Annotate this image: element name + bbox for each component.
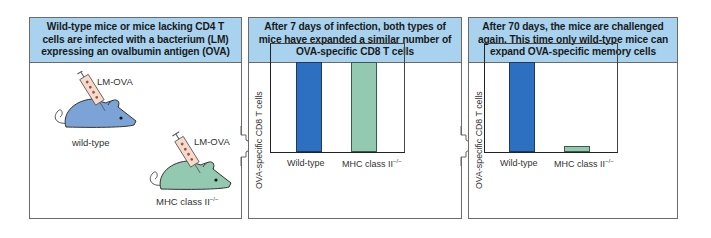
bar-chart-day-70: OVA-specific CD8 T cells Wild-type MHC c… xyxy=(469,18,679,218)
bar-wild-type xyxy=(509,62,535,152)
x-tick-mhc-text: MHC class II xyxy=(342,159,393,169)
x-tick-mhc: MHC class II−/− xyxy=(554,158,614,169)
injection-label-wild-type: LM-OVA xyxy=(97,76,133,87)
mouse-label-mhc-text: MHC class II xyxy=(156,196,210,207)
x-tick-wild-type: Wild-type xyxy=(500,158,538,168)
x-tick-mhc-sup: −/− xyxy=(605,158,614,164)
panel-day-7: After 7 days of infection, both types of… xyxy=(248,17,462,219)
x-tick-mhc-sup: −/− xyxy=(393,158,402,164)
y-axis-label: OVA-specific CD8 T cells xyxy=(474,91,484,189)
mouse-label-wild-type: wild-type xyxy=(72,137,110,148)
injection-label-mhc: LM-OVA xyxy=(194,136,230,147)
x-tick-wild-type: Wild-type xyxy=(287,158,325,168)
bar-wild-type xyxy=(296,62,322,152)
panel-day-70: After 70 days, the mice are challenged a… xyxy=(468,17,678,219)
plot-area xyxy=(484,43,618,153)
plot-area xyxy=(270,43,405,153)
bar-mhc-class-ii xyxy=(564,146,590,152)
mouse-label-mhc-sup: −/− xyxy=(210,196,219,202)
mhc-knockout-mouse-icon xyxy=(137,131,247,203)
x-tick-mhc: MHC class II−/− xyxy=(342,158,402,169)
panel-infection: Wild-type mice or mice lacking CD4 T cel… xyxy=(29,17,242,219)
x-tick-mhc-text: MHC class II xyxy=(554,159,605,169)
panel-header: Wild-type mice or mice lacking CD4 T cel… xyxy=(30,18,241,63)
bar-mhc-class-ii xyxy=(351,62,377,152)
bar-chart-day-7: OVA-specific CD8 T cells Wild-type MHC c… xyxy=(249,18,463,218)
y-axis-label: OVA-specific CD8 T cells xyxy=(254,91,264,189)
mouse-label-mhc: MHC class II−/− xyxy=(156,196,219,207)
